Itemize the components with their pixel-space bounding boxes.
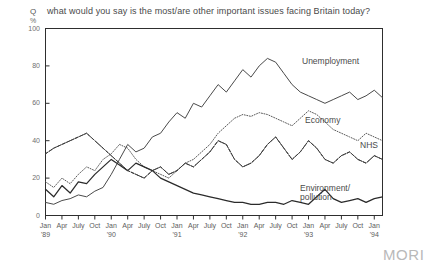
x-axis-year-label: '90 (98, 231, 124, 238)
y-axis-tick-label: 60 (18, 99, 40, 106)
annotation-nhs: NHS (360, 141, 378, 151)
y-axis-tick-label: 0 (18, 212, 40, 219)
y-axis-tick-label: 80 (18, 62, 40, 69)
y-axis-tick-label: 20 (18, 174, 40, 181)
y-axis-unit-label: % (30, 17, 36, 24)
x-axis-year-label: '89 (33, 231, 59, 238)
mori-logo: MORI (383, 246, 424, 263)
y-axis-tick-label: 40 (18, 137, 40, 144)
x-axis-year-label: '94 (361, 231, 387, 238)
x-axis-year-label: '93 (296, 231, 322, 238)
question-marker: Q (30, 7, 36, 16)
annotation-unemployment: Unemployment (302, 57, 359, 67)
y-axis-tick-label: 100 (18, 25, 40, 32)
x-axis-year-label: '91 (164, 231, 190, 238)
annotation-environment-line2: pollution (300, 193, 332, 203)
x-axis-year-label: '92 (230, 231, 256, 238)
annotation-economy: Economy (305, 116, 340, 126)
chart-question-title: what would you say is the most/are other… (47, 6, 370, 16)
chart-page: Q what would you say is the most/are oth… (0, 0, 424, 272)
x-axis-tick-label: Jan (361, 222, 387, 229)
